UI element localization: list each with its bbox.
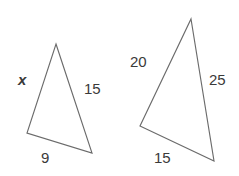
right-triangle-label-bottom-side: 15 — [154, 150, 171, 165]
left-triangle-outline — [27, 44, 92, 153]
right-triangle-label-right-side: 25 — [209, 72, 226, 87]
left-triangle-label-right-side: 15 — [84, 81, 101, 96]
right-triangle-outline — [140, 19, 214, 161]
similar-triangles-figure: x 15 9 20 25 15 — [0, 0, 239, 176]
left-triangle-label-x: x — [18, 72, 26, 87]
right-triangle-label-left-side: 20 — [130, 54, 147, 69]
triangles-canvas — [0, 0, 239, 176]
left-triangle-label-bottom-side: 9 — [41, 150, 49, 165]
